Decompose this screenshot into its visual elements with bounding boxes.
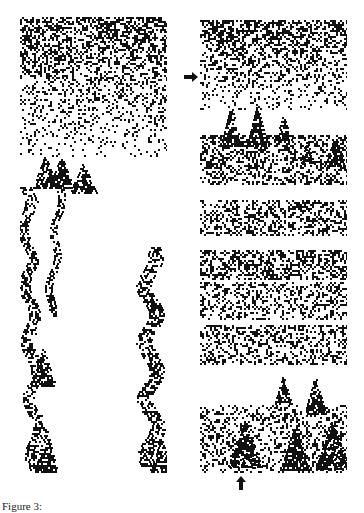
arrow-up-icon xyxy=(236,476,246,490)
figure-caption: Figure 3: xyxy=(2,499,362,513)
arrow-right-icon xyxy=(184,68,198,78)
spacetime-diagram-right xyxy=(200,20,347,473)
ca-panel-right xyxy=(200,20,347,473)
ca-panel-left xyxy=(20,17,167,473)
spacetime-diagram-left xyxy=(20,17,167,473)
